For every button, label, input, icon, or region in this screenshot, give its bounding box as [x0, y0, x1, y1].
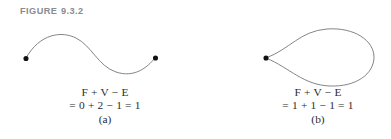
figure-caption-prefix: FIGURE	[20, 6, 57, 16]
panel-label-a: (a)	[45, 113, 165, 125]
graph-b-edge-loop	[266, 29, 374, 86]
formula-block-a: F + V − E = 0 + 2 − 1 = 1	[45, 86, 165, 111]
formula-a-line2: = 0 + 2 − 1 = 1	[45, 99, 165, 112]
formula-a-line1: F + V − E	[45, 86, 165, 99]
graph-a-drawing	[23, 35, 158, 74]
figure-caption-number: 9.3.2	[61, 6, 84, 16]
graph-b-vertex	[263, 55, 268, 60]
formula-b-line1: F + V − E	[258, 86, 378, 99]
formula-b-line2: = 1 + 1 − 1 = 1	[258, 99, 378, 112]
panel-label-b: (b)	[258, 113, 378, 125]
graph-b-drawing	[263, 29, 374, 86]
figure-container: FIGURE9.3.2 F + V − E = 0 + 2 − 1 = 1 (a…	[0, 0, 391, 139]
graph-a-edge	[26, 35, 155, 74]
figure-caption-header: FIGURE9.3.2	[20, 5, 84, 17]
graph-a-vertex-right	[153, 55, 158, 60]
graph-a-vertex-left	[23, 56, 28, 61]
formula-block-b: F + V − E = 1 + 1 − 1 = 1	[258, 86, 378, 111]
